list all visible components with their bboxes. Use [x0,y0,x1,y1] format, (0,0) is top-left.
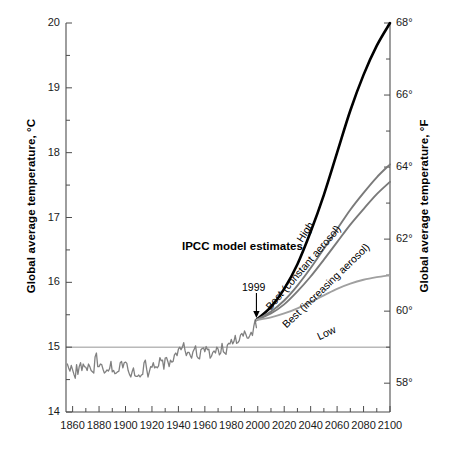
ipcc-model-estimates-note: IPCC model estimates [182,240,303,252]
y-tick-label-celsius: 19 [30,81,60,93]
y-tick-label-celsius: 18 [30,146,60,158]
chart-plot-area [0,0,453,459]
y-tick-label-celsius: 17 [30,211,60,223]
year-1999-label: 1999 [242,281,265,293]
y-tick-label-celsius: 16 [30,275,60,287]
y-tick-label-celsius: 15 [30,340,60,352]
axis-spines [66,23,390,412]
axis-ticks [66,23,390,412]
y-axis-label-fahrenheit: Global average temperature, °F [418,111,430,301]
y-tick-label-celsius: 20 [30,16,60,28]
series-high [256,23,390,320]
climate-projection-chart: Global average temperature, °C Global av… [0,0,453,459]
year-marker-arrow [253,293,259,318]
y-tick-label-fahrenheit: 60° [396,304,430,316]
y-tick-label-fahrenheit: 68° [396,16,430,28]
y-tick-label-fahrenheit: 64° [396,160,430,172]
y-tick-label-fahrenheit: 62° [396,232,430,244]
y-tick-label-celsius: 14 [30,405,60,417]
x-tick-label: 2100 [370,419,410,431]
y-axis-label-celsius: Global average temperature, °C [25,111,37,301]
data-series-group [67,23,390,378]
series-observed [67,320,256,378]
y-tick-label-fahrenheit: 58° [396,376,430,388]
y-tick-label-fahrenheit: 66° [396,88,430,100]
